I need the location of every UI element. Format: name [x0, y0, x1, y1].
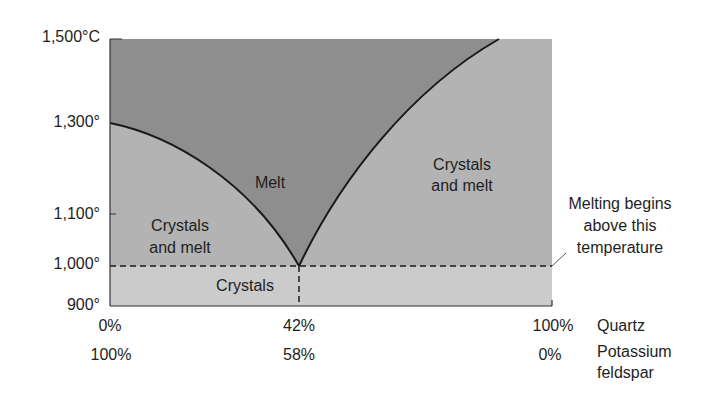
region-crystals [110, 266, 552, 306]
x-quartz-0: 0% [95, 316, 125, 335]
x-feldspar-100: 100% [86, 345, 136, 364]
region-label-left-1: Crystals [135, 216, 225, 235]
region-label-crystals: Crystals [205, 276, 285, 295]
x-quartz-42: 42% [279, 316, 319, 335]
x-axis-name-quartz: Quartz [597, 316, 645, 335]
annotation-line-1: Melting begins [555, 194, 685, 213]
region-label-left-2: and melt [135, 238, 225, 257]
y-tick-900: 900° [0, 295, 100, 314]
region-label-melt: Melt [240, 173, 300, 192]
y-tick-1300: 1,300° [0, 112, 100, 131]
y-tick-1500: 1,500°C [0, 27, 100, 46]
y-tick-1100: 1,100° [0, 204, 100, 223]
annotation-line-2: above this [555, 216, 685, 235]
y-tick-1000: 1,000° [0, 254, 100, 273]
x-feldspar-58: 58% [279, 345, 319, 364]
x-axis-name-feldspar-2: feldspar [597, 363, 654, 382]
x-quartz-100: 100% [528, 316, 578, 335]
x-feldspar-0: 0% [535, 345, 565, 364]
x-axis-name-feldspar-1: Potassium [597, 342, 672, 361]
annotation-line-3: temperature [555, 238, 685, 257]
region-label-right-2: and melt [417, 176, 507, 195]
region-label-right-1: Crystals [417, 155, 507, 174]
